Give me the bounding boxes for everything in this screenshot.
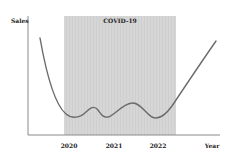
x-axis-label: Year (205, 142, 220, 149)
x-tick-2022: 2022 (150, 142, 167, 149)
x-tick-2021: 2021 (106, 142, 123, 149)
chart-canvas (0, 0, 235, 162)
y-axis-label: Sales (11, 17, 29, 24)
covid-region-label: COVID-19 (103, 17, 137, 24)
x-tick-2020: 2020 (61, 142, 78, 149)
